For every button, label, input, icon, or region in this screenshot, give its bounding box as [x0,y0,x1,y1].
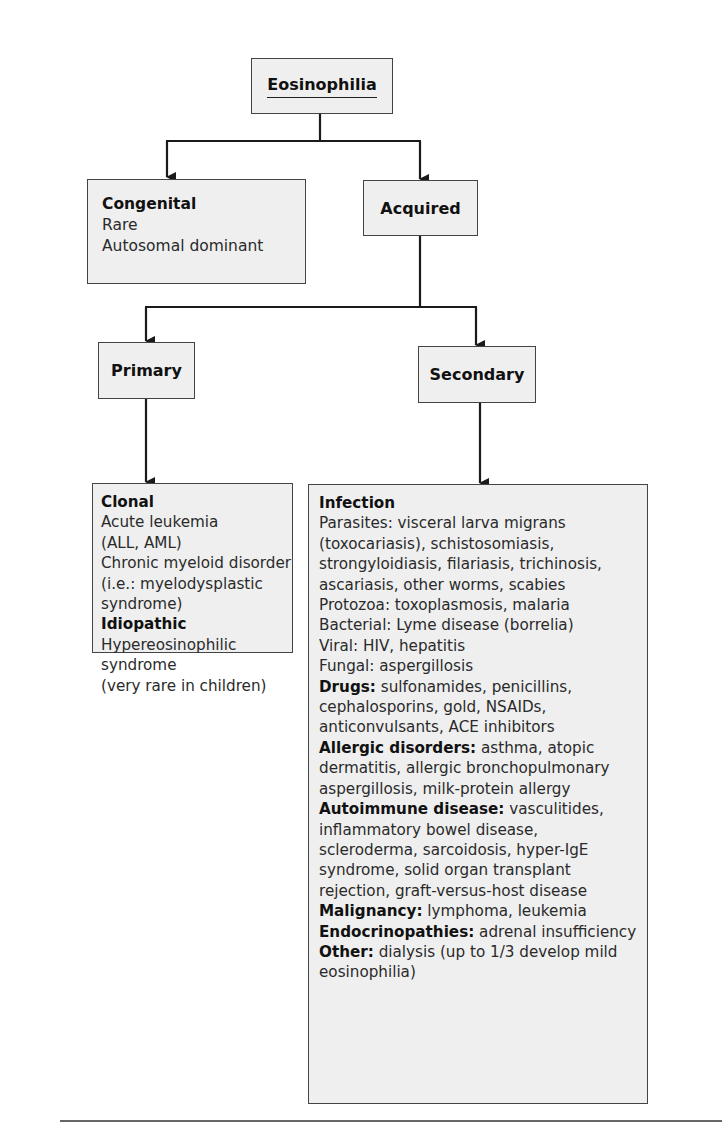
section-heading-drugs: Drugs: [319,678,376,696]
node-congenital: Congenital Rare Autosomal dominant [87,179,306,284]
detail-line: dermatitis, allergic bronchopulmonary [319,758,637,778]
congenital-line: Rare [102,215,305,236]
allergic-line: Allergic disorders: asthma, atopic [319,738,637,758]
detail-line: (i.e.: myelodysplastic [101,574,284,594]
detail-line: Parasites: visceral larva migrans [319,513,637,533]
section-heading-allergic: Allergic disorders: [319,739,476,757]
malignancy-line: Malignancy: lymphoma, leukemia [319,901,637,921]
secondary-title: Secondary [430,365,525,384]
node-secondary: Secondary [418,346,536,403]
secondary-details-box: Infection Parasites: visceral larva migr… [308,484,648,1104]
detail-line: (very rare in children) [101,676,284,696]
detail-line: cephalosporins, gold, NSAIDs, [319,697,637,717]
detail-line: rejection, graft-versus-host disease [319,881,637,901]
primary-title: Primary [111,361,182,380]
drugs-line: Drugs: sulfonamides, penicillins, [319,677,637,697]
node-acquired: Acquired [363,180,478,236]
detail-line: (toxocariasis), schistosomiasis, [319,534,637,554]
detail-line: Hypereosinophilic [101,635,284,655]
detail-line: Acute leukemia [101,512,284,532]
section-heading-infection: Infection [319,493,637,513]
section-heading-autoimmune: Autoimmune disease: [319,800,504,818]
endocrine-line: Endocrinopathies: adrenal insufficiency [319,922,637,942]
node-primary: Primary [98,342,195,399]
detail-line: aspergillosis, milk-protein allergy [319,779,637,799]
detail-line: syndrome, solid organ transplant [319,860,637,880]
congenital-title: Congenital [102,194,305,215]
section-heading-endocrinopathies: Endocrinopathies: [319,923,474,941]
root-node-eosinophilia: Eosinophilia [251,58,393,114]
autoimmune-line: Autoimmune disease: vasculitides, [319,799,637,819]
detail-line: Chronic myeloid disorder [101,553,284,573]
detail-line: strongyloidiasis, filariasis, trichinosi… [319,554,637,574]
congenital-line: Autosomal dominant [102,236,305,257]
section-heading-idiopathic: Idiopathic [101,614,284,634]
section-heading-malignancy: Malignancy: [319,902,423,920]
section-heading-clonal: Clonal [101,492,284,512]
detail-line: inflammatory bowel disease, [319,820,637,840]
detail-line: anticonvulsants, ACE inhibitors [319,717,637,737]
detail-line: Fungal: aspergillosis [319,656,637,676]
detail-line: (ALL, AML) [101,533,284,553]
detail-line: ascariasis, other worms, scabies [319,575,637,595]
detail-line: Bacterial: Lyme disease (borrelia) [319,615,637,635]
primary-details-box: Clonal Acute leukemia (ALL, AML) Chronic… [92,483,293,653]
detail-line: Protozoa: toxoplasmosis, malaria [319,595,637,615]
detail-line: Viral: HIV, hepatitis [319,636,637,656]
detail-line: syndrome) [101,594,284,614]
detail-line: eosinophilia) [319,962,637,982]
other-line: Other: dialysis (up to 1/3 develop mild [319,942,637,962]
section-heading-other: Other: [319,943,374,961]
detail-line: scleroderma, sarcoidosis, hyper-IgE [319,840,637,860]
detail-line: syndrome [101,655,284,675]
root-label: Eosinophilia [267,75,376,98]
acquired-title: Acquired [380,199,460,218]
